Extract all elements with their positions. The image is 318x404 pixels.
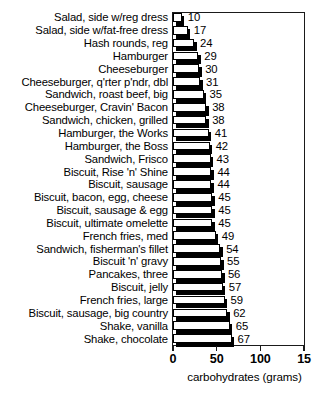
bar: [173, 309, 227, 321]
bar-value-label: 42: [216, 141, 228, 153]
category-label: Salad, side w/reg dress: [54, 13, 168, 25]
bar-value-label: 45: [218, 205, 230, 217]
category-label: Hamburger, the Works: [58, 128, 168, 140]
category-label: Cheeseburger, Cravin' Bacon: [25, 103, 168, 115]
bar-body: [173, 103, 206, 112]
bar-body: [173, 116, 206, 125]
bar-value-label: 55: [227, 257, 239, 269]
bar-body: [173, 309, 227, 318]
category-label: Hash rounds, reg: [84, 38, 168, 50]
category-label: Hamburger: [113, 51, 168, 63]
bar-row: Biscuit, sausage & egg45: [0, 205, 318, 218]
category-label: Shake, chocolate: [84, 334, 168, 346]
bar-row: Shake, chocolate67: [0, 333, 318, 346]
category-label: Biscuit, ultimate omelette: [46, 218, 168, 230]
category-label: Cheeseburger, q'rter p'ndr, dbl: [21, 77, 168, 89]
bar-body: [173, 193, 212, 202]
bar-body: [173, 90, 204, 99]
category-label: Biscuit 'n' gravy: [93, 257, 168, 269]
bar-row: Cheeseburger, Cravin' Bacon38: [0, 102, 318, 115]
bar-value-label: 65: [236, 321, 248, 333]
bar-body: [173, 167, 211, 176]
bar-row: Shake, vanilla65: [0, 320, 318, 333]
bar-body: [173, 334, 232, 343]
bar: [173, 334, 232, 346]
bar-body: [173, 180, 211, 189]
category-label: Pancakes, three: [89, 270, 168, 282]
bar-row: Hamburger29: [0, 51, 318, 64]
bar: [173, 154, 211, 166]
x-tick-mark: [216, 346, 218, 351]
bar-value-label: 29: [204, 51, 216, 63]
bar-body: [173, 64, 199, 73]
bar: [173, 90, 204, 102]
bar-body: [173, 142, 210, 151]
bar-row: Pancakes, three56: [0, 269, 318, 282]
x-tick-label: 0: [170, 352, 177, 366]
bar-rows: Salad, side w/reg dress10Salad, side w/f…: [0, 12, 318, 346]
bar-row: Hamburger, the Boss42: [0, 140, 318, 153]
category-label: Biscuit, sausage: [88, 180, 168, 192]
bar: [173, 103, 206, 115]
bar: [173, 116, 206, 128]
bar-row: Biscuit, ultimate omelette45: [0, 218, 318, 231]
bar: [173, 219, 212, 231]
bar-row: Biscuit, bacon, egg, cheese45: [0, 192, 318, 205]
bar-value-label: 44: [217, 180, 229, 192]
bar-value-label: 17: [194, 25, 206, 37]
bar: [173, 180, 211, 192]
bar-value-label: 56: [228, 270, 240, 282]
bar: [173, 142, 210, 154]
x-tick-mark: [260, 346, 262, 351]
category-label: Sandwich, chicken, grilled: [42, 115, 168, 127]
bar-body: [173, 244, 220, 253]
bar-value-label: 43: [217, 154, 229, 166]
bar-row: French fries, med49: [0, 230, 318, 243]
bar: [173, 13, 182, 25]
bar-body: [173, 257, 221, 266]
category-label: Cheeseburger: [98, 64, 168, 76]
bar: [173, 206, 212, 218]
bar: [173, 129, 209, 141]
bar-value-label: 31: [206, 77, 218, 89]
bar-value-label: 59: [231, 295, 243, 307]
bar-row: Sandwich, Frisco43: [0, 153, 318, 166]
category-label: Sandwich, fisherman's fillet: [36, 244, 168, 256]
bar-row: Salad, side w/fat-free dress17: [0, 25, 318, 38]
bar-row: Salad, side w/reg dress10: [0, 12, 318, 25]
bar-value-label: 24: [200, 38, 212, 50]
x-tick-label: 100: [250, 352, 270, 366]
bar: [173, 296, 225, 308]
category-label: Salad, side w/fat-free dress: [35, 25, 168, 37]
bar: [173, 244, 220, 256]
bar: [173, 167, 211, 179]
bar-body: [173, 206, 212, 215]
bar-value-label: 41: [215, 128, 227, 140]
bar-body: [173, 77, 200, 86]
bar-value-label: 30: [205, 64, 217, 76]
bar: [173, 64, 199, 76]
bar-body: [173, 321, 230, 330]
category-label: Biscuit, Rise 'n' Shine: [64, 167, 168, 179]
bar-value-label: 35: [210, 90, 222, 102]
bar-body: [173, 129, 209, 138]
bar-body: [173, 231, 216, 240]
bar-value-label: 45: [218, 192, 230, 204]
x-axis: carbohydrates (grams) 05010015: [0, 346, 318, 404]
bar-body: [173, 39, 194, 48]
bar-value-label: 45: [218, 218, 230, 230]
bar-value-label: 67: [238, 334, 250, 346]
bar-row: Hamburger, the Works41: [0, 128, 318, 141]
bar-row: Sandwich, roast beef, big35: [0, 89, 318, 102]
category-label: Biscuit, jelly: [111, 282, 168, 294]
bar-value-label: 62: [233, 308, 245, 320]
category-label: Shake, vanilla: [100, 321, 168, 333]
category-label: Biscuit, bacon, egg, cheese: [34, 192, 168, 204]
bar: [173, 231, 216, 243]
bar-chart: Salad, side w/reg dress10Salad, side w/f…: [0, 0, 318, 404]
bar-body: [173, 154, 211, 163]
bar: [173, 193, 212, 205]
category-label: Hamburger, the Boss: [65, 141, 168, 153]
bar-value-label: 54: [226, 244, 238, 256]
bar: [173, 270, 222, 282]
